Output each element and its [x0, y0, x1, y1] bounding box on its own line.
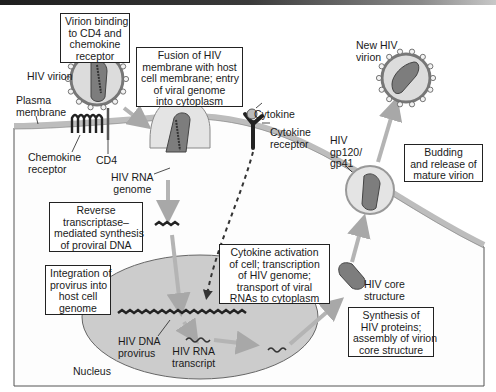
label-cytokine: Cytokine — [254, 109, 295, 121]
gp120-spike — [420, 54, 425, 59]
box-virion-binding: Virion binding to CD4 and chemokine rece… — [60, 13, 130, 63]
gp120-spike — [379, 64, 384, 69]
box-budding: Budding and release of mature virion — [404, 144, 483, 182]
gp120-spike — [101, 105, 106, 110]
gp120-spike — [397, 102, 402, 107]
gp120-spike — [376, 75, 381, 80]
label-plasma-membrane: Plasma membrane — [16, 95, 66, 118]
gp120-spike — [387, 97, 392, 102]
arrow-budding-to-release — [378, 108, 394, 162]
gp120-spike — [76, 99, 81, 104]
gp120-spike — [121, 64, 126, 69]
box-reverse-transcription: Reverse transcriptase– mediated synthesi… — [49, 202, 143, 252]
gp120-spike — [123, 76, 128, 81]
gp120-spike — [430, 75, 435, 80]
gp120-spike — [409, 102, 414, 107]
gp120-spike — [379, 87, 384, 92]
gp120-spike — [121, 89, 126, 94]
label-chemokine-receptor: Chemokine receptor — [28, 152, 81, 175]
box-cytokine-activation: Cytokine activation of cell; transcripti… — [219, 244, 330, 304]
gp120-spike — [68, 64, 73, 69]
label-cytokine-receptor: Cytokine receptor — [270, 127, 311, 150]
gp120-spike — [112, 99, 117, 104]
label-hiv-rna-genome: HIV RNA genome — [111, 172, 154, 195]
label-hiv-virion: HIV virion — [27, 71, 73, 83]
label-cd4: CD4 — [96, 155, 117, 167]
label-hiv-core-structure: HIV core structure — [364, 279, 405, 302]
label-new-hiv-virion: New HIV virion — [356, 40, 397, 63]
label-gp120-gp41: HIV gp120/ gp41 — [330, 135, 362, 170]
gp120-spike — [68, 89, 73, 94]
gp120-spike — [420, 97, 425, 102]
gp120-spike — [428, 87, 433, 92]
gp120-spike — [428, 64, 433, 69]
gp120-spike — [409, 49, 414, 54]
budding-virion — [346, 166, 394, 214]
gp120-spike — [88, 105, 93, 110]
box-integration: Integration of provirus into host cell g… — [45, 265, 111, 315]
box-fusion: Fusion of HIV membrane with host cell me… — [136, 47, 243, 107]
box-synthesis: Synthesis of HIV proteins; assembly of v… — [348, 307, 434, 357]
label-hiv-rna-transcript: HIV RNA transcript — [172, 346, 215, 369]
gp120-spike — [397, 49, 402, 54]
label-nucleus: Nucleus — [73, 366, 111, 378]
label-hiv-dna-provirus: HIV DNA provirus — [118, 336, 161, 359]
